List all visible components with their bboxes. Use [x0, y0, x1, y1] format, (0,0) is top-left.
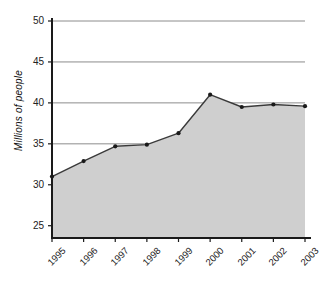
chart-container: Millions of people 253035404550 19951996… — [0, 0, 327, 287]
data-point-1997 — [113, 144, 117, 148]
y-tick-label-35: 35 — [20, 138, 44, 149]
data-point-1998 — [145, 143, 149, 147]
y-tick-label-45: 45 — [20, 56, 44, 67]
data-point-2002 — [271, 102, 275, 106]
area-fill — [52, 95, 305, 238]
data-point-1996 — [82, 159, 86, 163]
y-tick-label-50: 50 — [20, 15, 44, 26]
area-chart-plot — [0, 0, 327, 287]
data-point-2001 — [240, 105, 244, 109]
y-tick-label-25: 25 — [20, 220, 44, 231]
data-point-2000 — [208, 93, 212, 97]
y-tick-label-40: 40 — [20, 97, 44, 108]
y-axis-title: Millions of people — [13, 56, 24, 166]
data-point-1999 — [176, 131, 180, 135]
y-tick-label-30: 30 — [20, 179, 44, 190]
data-point-2003 — [303, 104, 307, 108]
